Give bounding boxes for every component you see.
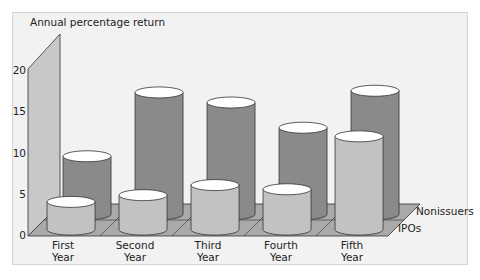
bar-ipos-1-top xyxy=(47,196,95,207)
category-label-fourth-year: Fourth Year xyxy=(251,239,311,263)
category-label-fifth-year: Fifth Year xyxy=(322,239,382,263)
category-line2: Year xyxy=(322,251,382,263)
bar-nonissuers-4-top xyxy=(279,122,327,133)
bar-nonissuers-5-top xyxy=(351,85,399,96)
bar-nonissuers-1-top xyxy=(63,151,111,162)
bar-ipos-5-top xyxy=(335,131,383,142)
series-label-nonissuers: Nonissuers xyxy=(416,205,474,217)
category-line2: Year xyxy=(178,251,238,263)
series-label-ipos: IPOs xyxy=(398,222,421,234)
category-label-second-year: Second Year xyxy=(105,239,165,263)
y-tick-20: 20 xyxy=(12,64,26,76)
y-tick-5: 5 xyxy=(12,188,26,200)
bar-nonissuers-3-top xyxy=(207,97,255,108)
bar-ipos-3 xyxy=(191,185,239,235)
category-line1: Third xyxy=(178,239,238,251)
bar-ipos-2 xyxy=(119,195,167,235)
category-label-third-year: Third Year xyxy=(178,239,238,263)
bar-ipos-4-top xyxy=(263,184,311,195)
bar-ipos-5 xyxy=(335,136,383,235)
category-line2: Year xyxy=(33,251,93,263)
category-label-first-year: First Year xyxy=(33,239,93,263)
category-line2: Year xyxy=(105,251,165,263)
y-tick-15: 15 xyxy=(12,105,26,117)
bar-nonissuers-2-top xyxy=(135,87,183,98)
bar-ipos-4 xyxy=(263,189,311,235)
y-tick-0: 0 xyxy=(12,229,26,241)
bar-ipos-2-top xyxy=(119,190,167,201)
category-line1: Fifth xyxy=(322,239,382,251)
y-axis-label: Annual percentage return xyxy=(30,16,165,28)
bar-ipos-3-top xyxy=(191,180,239,191)
category-line1: First xyxy=(33,239,93,251)
y-tick-10: 10 xyxy=(12,147,26,159)
category-line2: Year xyxy=(251,251,311,263)
chart-plot xyxy=(0,0,480,280)
category-line1: Second xyxy=(105,239,165,251)
category-line1: Fourth xyxy=(251,239,311,251)
